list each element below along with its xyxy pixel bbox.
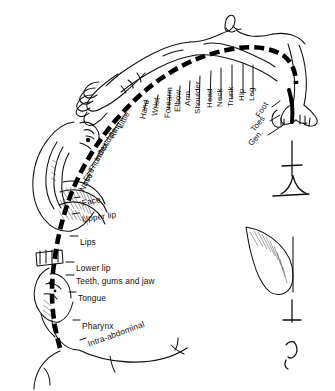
cortex-base-curve [34, 338, 187, 389]
homunculus-trunk-contour [121, 42, 190, 73]
homunculus-label-hip: Hip [238, 89, 246, 101]
homunculus-label-lips: Lips [80, 238, 96, 246]
homunculus-tongue-icon [34, 268, 78, 350]
detail-figure-lower [283, 300, 301, 369]
homunculus-label-lower-lip: Lower lip [76, 264, 110, 272]
homunculus-label-tongue: Tongue [78, 294, 106, 302]
homunculus-label-leg: Leg [248, 87, 256, 101]
homunculus-label-elbow: Elbow [174, 90, 183, 113]
sensory-homunculus-figure: LittleRingMiddleIndexThumbEyeNoseHandWri… [0, 0, 335, 391]
homunculus-label-shoulder: Shoulder [194, 81, 202, 114]
detail-figure-upper [273, 141, 309, 196]
homunculus-label-trunk: Trunk [227, 86, 235, 107]
homunculus-label-teeth-gums-and-jaw: Teeth, gums and jaw [76, 277, 155, 285]
homunculus-teeth-icon [36, 249, 63, 266]
homunculus-leg-foot-icon [272, 44, 317, 127]
homunculus-label-neck: Neck [216, 88, 224, 107]
homunculus-label-arm: Arm [184, 91, 192, 106]
homunculus-drawing [0, 0, 335, 391]
homunculus-label-head: Head [206, 88, 214, 108]
homunculus-label-pharynx: Pharynx [82, 322, 113, 330]
